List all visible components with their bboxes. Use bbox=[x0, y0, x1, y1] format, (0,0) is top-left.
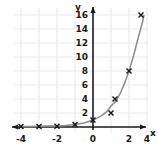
y-tick-label: 12 bbox=[75, 38, 88, 48]
y-tick-label: 8 bbox=[82, 66, 88, 76]
x-tick-label: 0 bbox=[90, 134, 96, 144]
y-tick-label: 6 bbox=[82, 80, 88, 90]
x-tick-label: -2 bbox=[52, 134, 62, 144]
y-tick-label: 14 bbox=[75, 24, 88, 34]
y-tick-label: 4 bbox=[82, 94, 88, 104]
y-axis-label: y bbox=[75, 2, 81, 12]
y-tick-label: 2 bbox=[82, 108, 88, 118]
x-tick-label: 2 bbox=[126, 134, 132, 144]
x-axis-label: x bbox=[150, 128, 156, 138]
y-tick-label: 10 bbox=[75, 52, 88, 62]
exponential-graph: 16 14 12 10 8 6 4 2 -4 -2 0 2 4 y x bbox=[0, 0, 158, 146]
chart-screenshot: 16 14 12 10 8 6 4 2 -4 -2 0 2 4 y x bbox=[0, 0, 158, 146]
x-tick-label: -4 bbox=[16, 134, 26, 144]
